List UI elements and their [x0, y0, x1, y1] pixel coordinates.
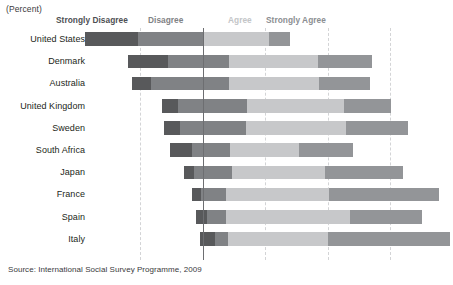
- bar-row: Japan: [0, 161, 453, 183]
- legend-item-agree: Agree: [228, 14, 252, 26]
- category-label-united-kingdom: United Kingdom: [20, 95, 85, 117]
- bar-segment-strongly-disagree: [162, 99, 178, 113]
- bar-segment-strongly-agree: [269, 32, 290, 46]
- bar-segment-agree: [247, 99, 344, 113]
- bar-segment-strongly-disagree: [184, 166, 194, 180]
- bar-segment-agree: [226, 188, 329, 202]
- bar-segment-agree: [230, 143, 299, 157]
- bar-segment-disagree: [168, 55, 229, 69]
- bar-segment-strongly-agree: [319, 77, 370, 91]
- bar-row: Spain: [0, 206, 453, 228]
- chart-legend: Strongly Disagree Disagree Agree Strongl…: [0, 14, 453, 28]
- legend-item-strongly-agree: Strongly Agree: [266, 14, 326, 26]
- category-label-sweden: Sweden: [52, 117, 85, 139]
- category-label-japan: Japan: [60, 161, 85, 183]
- bar-segment-disagree: [215, 232, 228, 246]
- bar-segment-disagree: [138, 32, 203, 46]
- bar-segment-strongly-disagree: [132, 77, 151, 91]
- bar-row: Denmark: [0, 50, 453, 72]
- bar-segment-disagree: [207, 210, 226, 224]
- chart-root: (Percent) Strongly Disagree Disagree Agr…: [0, 0, 453, 285]
- bar-segment-strongly-disagree: [170, 143, 192, 157]
- bar-segment-agree: [228, 232, 328, 246]
- bar-segment-disagree: [201, 188, 226, 202]
- stacked-bar: [128, 55, 372, 69]
- bar-segment-strongly-disagree: [196, 210, 207, 224]
- bar-row: United States: [0, 28, 453, 50]
- bar-segment-strongly-agree: [325, 166, 403, 180]
- stacked-bar: [196, 210, 422, 224]
- legend-item-strongly-disagree: Strongly Disagree: [56, 14, 128, 26]
- bar-segment-disagree: [151, 77, 229, 91]
- category-label-france: France: [57, 183, 85, 205]
- bar-segment-disagree: [192, 143, 230, 157]
- legend-item-disagree: Disagree: [148, 14, 183, 26]
- bar-segment-disagree: [180, 121, 246, 135]
- category-label-italy: Italy: [68, 228, 85, 250]
- bar-segment-agree: [229, 55, 318, 69]
- category-label-denmark: Denmark: [48, 50, 85, 72]
- stacked-bar: [184, 166, 403, 180]
- bar-segment-agree: [246, 121, 346, 135]
- category-label-spain: Spain: [62, 206, 85, 228]
- bar-segment-strongly-agree: [329, 188, 439, 202]
- zero-axis-line: [203, 28, 204, 260]
- bar-row: Australia: [0, 72, 453, 94]
- bar-segment-agree: [232, 166, 325, 180]
- bar-segment-agree: [229, 77, 319, 91]
- bar-segment-disagree: [178, 99, 247, 113]
- bar-segment-strongly-agree: [328, 232, 450, 246]
- source-note: Source: International Social Survey Prog…: [8, 265, 202, 274]
- bar-row: South Africa: [0, 139, 453, 161]
- stacked-bar: [162, 99, 391, 113]
- stacked-bar: [200, 232, 450, 246]
- bar-segment-strongly-agree: [346, 121, 408, 135]
- stacked-bar: [132, 77, 370, 91]
- bar-segment-strongly-disagree: [128, 55, 168, 69]
- bar-row: United Kingdom: [0, 95, 453, 117]
- bar-segment-strongly-agree: [299, 143, 353, 157]
- bar-segment-strongly-disagree: [192, 188, 201, 202]
- category-label-australia: Australia: [50, 72, 85, 94]
- bar-row: Sweden: [0, 117, 453, 139]
- stacked-bar: [192, 188, 439, 202]
- bar-segment-strongly-disagree: [164, 121, 180, 135]
- stacked-bar: [170, 143, 353, 157]
- bar-segment-strongly-agree: [344, 99, 391, 113]
- stacked-bar: [85, 32, 290, 46]
- stacked-bar: [164, 121, 408, 135]
- bar-segment-agree: [226, 210, 350, 224]
- bar-segment-strongly-disagree: [85, 32, 138, 46]
- bar-row: France: [0, 183, 453, 205]
- bar-row: Italy: [0, 228, 453, 250]
- unit-caption: (Percent): [6, 4, 42, 14]
- plot-area: United StatesDenmarkAustraliaUnited King…: [0, 28, 453, 260]
- bar-segment-strongly-agree: [350, 210, 422, 224]
- category-label-united-states: United States: [30, 28, 85, 50]
- bar-segment-strongly-agree: [318, 55, 372, 69]
- category-label-south-africa: South Africa: [36, 139, 85, 161]
- bar-segment-disagree: [194, 166, 232, 180]
- bar-segment-agree: [203, 32, 269, 46]
